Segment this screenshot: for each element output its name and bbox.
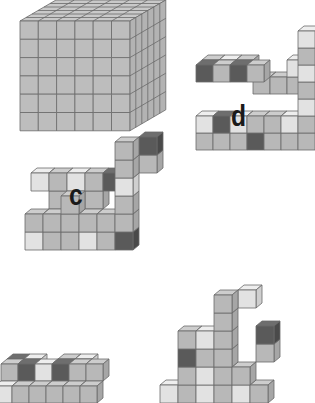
full-cube-6x6x6 [20,0,166,131]
structure-bottom-right [160,285,280,403]
structure-bottom-left [0,354,109,403]
cube-diagram [0,0,315,403]
label-c: c [69,180,83,210]
structure-c [25,132,163,250]
structure-d [196,26,315,150]
label-d: d [231,101,246,131]
